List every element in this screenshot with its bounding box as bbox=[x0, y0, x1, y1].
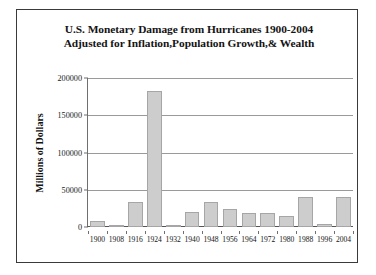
bar-slot bbox=[107, 78, 126, 227]
bar-series bbox=[88, 78, 353, 227]
bar[interactable] bbox=[260, 213, 275, 227]
chart-title: U.S. Monetary Damage from Hurricanes 190… bbox=[31, 22, 347, 50]
x-tick-mark bbox=[183, 231, 184, 234]
bar-slot bbox=[183, 78, 202, 227]
chart-title-line-2: Adjusted for Inflation,Population Growth… bbox=[31, 36, 347, 50]
bar-slot bbox=[239, 78, 258, 227]
x-tick-label: 1948 bbox=[203, 235, 218, 244]
bar[interactable] bbox=[204, 202, 219, 227]
bar-slot bbox=[334, 78, 353, 227]
x-tick-mark bbox=[221, 231, 222, 234]
x-tick-mark bbox=[353, 231, 354, 234]
y-axis-title: Millions of Dollars bbox=[34, 113, 45, 192]
bar-slot bbox=[315, 78, 334, 227]
bar[interactable] bbox=[109, 225, 124, 227]
x-tick-label: 1988 bbox=[298, 235, 313, 244]
y-tick-label: 50000 bbox=[62, 185, 82, 194]
bar[interactable] bbox=[317, 224, 332, 227]
x-tick-mark bbox=[277, 231, 278, 234]
y-tick-label: 150000 bbox=[57, 111, 82, 120]
bar[interactable] bbox=[223, 209, 238, 227]
bar[interactable] bbox=[242, 213, 257, 227]
x-tick-label: 1964 bbox=[241, 235, 256, 244]
x-tick-mark bbox=[258, 231, 259, 234]
bar-slot bbox=[258, 78, 277, 227]
bar[interactable] bbox=[279, 216, 294, 227]
plot-area: 050000100000150000200000 bbox=[88, 78, 353, 227]
bar-slot bbox=[126, 78, 145, 227]
x-tick-label: 1956 bbox=[222, 235, 237, 244]
x-tick-label: 1980 bbox=[279, 235, 294, 244]
bar[interactable] bbox=[336, 197, 351, 227]
bar[interactable] bbox=[90, 221, 105, 227]
bar-slot bbox=[145, 78, 164, 227]
y-tick-label: 100000 bbox=[57, 148, 82, 157]
x-tick-label: 1972 bbox=[260, 235, 275, 244]
x-tick-mark bbox=[239, 231, 240, 234]
y-tick-label: 0 bbox=[78, 223, 82, 232]
bar-slot bbox=[202, 78, 221, 227]
x-tick-mark bbox=[315, 231, 316, 234]
x-tick-label: 1996 bbox=[317, 235, 332, 244]
chart-title-line-1: U.S. Monetary Damage from Hurricanes 190… bbox=[31, 22, 347, 36]
bar-slot bbox=[221, 78, 240, 227]
x-tick-mark bbox=[202, 231, 203, 234]
bar[interactable] bbox=[298, 197, 313, 227]
x-tick-mark bbox=[145, 231, 146, 234]
x-tick-mark bbox=[296, 231, 297, 234]
x-tick-label: 2004 bbox=[336, 235, 351, 244]
x-tick-mark bbox=[334, 231, 335, 234]
x-tick-label: 1908 bbox=[109, 235, 124, 244]
bar-slot bbox=[277, 78, 296, 227]
x-tick-label: 1932 bbox=[166, 235, 181, 244]
x-tick-label: 1916 bbox=[128, 235, 143, 244]
bar-slot bbox=[296, 78, 315, 227]
x-tick-label: 1940 bbox=[185, 235, 200, 244]
x-axis-ticks: 1900190819161924193219401948195619641972… bbox=[88, 231, 353, 245]
bar-slot bbox=[88, 78, 107, 227]
x-tick-mark bbox=[107, 231, 108, 234]
x-tick-mark bbox=[164, 231, 165, 234]
bar[interactable] bbox=[166, 225, 181, 227]
x-tick-mark bbox=[126, 231, 127, 234]
x-tick-mark bbox=[88, 231, 89, 234]
x-tick-label: 1900 bbox=[90, 235, 105, 244]
y-tick-label: 200000 bbox=[57, 74, 82, 83]
bar[interactable] bbox=[147, 91, 162, 227]
bar[interactable] bbox=[128, 202, 143, 227]
bar-slot bbox=[164, 78, 183, 227]
chart-frame: U.S. Monetary Damage from Hurricanes 190… bbox=[16, 9, 358, 263]
bar[interactable] bbox=[185, 212, 200, 227]
x-tick-label: 1924 bbox=[147, 235, 162, 244]
